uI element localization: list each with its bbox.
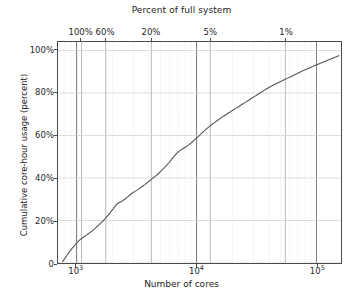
tick-mark: [105, 38, 106, 42]
x-tick-top-20: 20%: [142, 27, 161, 37]
chart-figure: Percent of full system Number of cores C…: [0, 0, 363, 300]
y-tick-40: 40%: [35, 173, 54, 183]
y-tick-60: 60%: [35, 130, 54, 140]
x-tick-bottom-10000: 104: [189, 266, 204, 276]
tick-mark: [317, 264, 318, 268]
x-tick-bottom-100000: 105: [310, 266, 325, 276]
tick-mark: [54, 178, 58, 179]
tick-mark: [75, 264, 76, 268]
x-tick-top-100: 100%: [69, 27, 93, 37]
tick-mark: [80, 38, 81, 42]
x-tick-top-5: 5%: [204, 27, 218, 37]
cumulative-usage-line: [62, 55, 339, 262]
tick-mark: [54, 221, 58, 222]
tick-mark: [54, 264, 58, 265]
tick-mark: [54, 92, 58, 93]
top-axis-title: Percent of full system: [0, 5, 363, 15]
y-tick-20: 20%: [35, 216, 54, 226]
x-tick-top-1: 1%: [279, 27, 293, 37]
x-tick-top-60: 60%: [96, 27, 115, 37]
y-tick-100: 100%: [30, 45, 54, 55]
x-tick-bottom-1000: 103: [68, 266, 83, 276]
tick-mark: [196, 264, 197, 268]
y-axis-title: Cumulative core-hour usage (percent): [19, 45, 29, 265]
tick-mark: [54, 49, 58, 50]
x-axis-title: Number of cores: [0, 279, 363, 289]
tick-mark: [285, 38, 286, 42]
tick-mark: [151, 38, 152, 42]
plot-area: [57, 41, 342, 264]
y-tick-80: 80%: [35, 87, 54, 97]
tick-mark: [54, 135, 58, 136]
tick-mark: [210, 38, 211, 42]
curve-layer: [58, 42, 341, 263]
